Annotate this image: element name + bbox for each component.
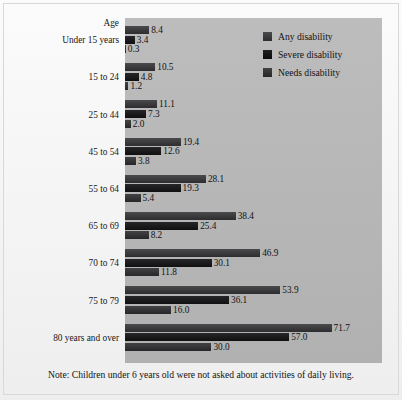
bar-row: 16.0 (125, 306, 382, 314)
bar-any (125, 63, 155, 71)
bar-value-label: 8.4 (149, 25, 163, 35)
bar-value-label: 38.4 (236, 211, 254, 221)
bar-value-label: 11.1 (157, 99, 175, 109)
legend-item: Severe disability (263, 45, 378, 63)
bar-severe (125, 73, 139, 81)
category-axis: Age Under 15 years15 to 2425 to 4445 to … (0, 18, 122, 363)
bar-any (125, 26, 149, 34)
category-label: 80 years and over (53, 333, 119, 343)
bar-value-label: 1.2 (128, 81, 142, 91)
chart-figure: 8.43.40.310.54.81.211.17.32.019.412.63.8… (0, 0, 402, 400)
bar-value-label: 30.1 (212, 258, 230, 268)
bar-value-label: 10.5 (155, 62, 173, 72)
bar-needs (125, 268, 159, 276)
bar-value-label: 16.0 (171, 305, 189, 315)
legend-item: Needs disability (263, 63, 378, 81)
bar-value-label: 36.1 (229, 295, 247, 305)
bar-value-label: 28.1 (206, 174, 224, 184)
category-label: 25 to 44 (89, 110, 119, 120)
bar-value-label: 3.4 (135, 35, 149, 45)
category-label: 45 to 54 (89, 147, 119, 157)
bar-row: 30.1 (125, 259, 382, 267)
legend-swatch-icon (263, 32, 272, 41)
bar-any (125, 249, 260, 257)
bar-row: 30.0 (125, 343, 382, 351)
bar-value-label: 3.8 (136, 156, 150, 166)
bar-value-label: 0.3 (126, 44, 140, 54)
bar-value-label: 2.0 (131, 119, 145, 129)
legend-label: Severe disability (278, 49, 342, 60)
bar-any (125, 212, 236, 220)
bar-severe (125, 333, 289, 341)
legend-swatch-icon (263, 50, 272, 59)
bar-row: 8.2 (125, 231, 382, 239)
bar-any (125, 138, 181, 146)
bar-row: 53.9 (125, 286, 382, 294)
bar-value-label: 19.3 (181, 183, 199, 193)
bar-any (125, 324, 332, 332)
bar-row: 5.4 (125, 194, 382, 202)
bar-severe (125, 36, 135, 44)
bar-needs (125, 231, 149, 239)
bar-needs (125, 343, 211, 351)
category-label: Under 15 years (62, 35, 119, 45)
bar-row: 7.3 (125, 110, 382, 118)
bar-row: 71.7 (125, 324, 382, 332)
bar-row: 19.4 (125, 138, 382, 146)
bar-value-label: 12.6 (161, 146, 179, 156)
bar-severe (125, 147, 161, 155)
bar-row: 1.2 (125, 82, 382, 90)
bar-row: 46.9 (125, 249, 382, 257)
bar-row: 3.8 (125, 157, 382, 165)
bar-needs (125, 194, 141, 202)
bar-value-label: 19.4 (181, 137, 199, 147)
bar-value-label: 57.0 (289, 332, 307, 342)
bar-row: 38.4 (125, 212, 382, 220)
category-label: 65 to 69 (89, 221, 119, 231)
legend-item: Any disability (263, 27, 378, 45)
bar-row: 28.1 (125, 175, 382, 183)
legend-label: Any disability (278, 31, 333, 42)
category-label: 75 to 79 (89, 296, 119, 306)
legend-label: Needs disability (278, 67, 340, 78)
bar-row: 25.4 (125, 222, 382, 230)
bar-row: 11.1 (125, 100, 382, 108)
bar-value-label: 8.2 (149, 230, 163, 240)
bar-value-label: 4.8 (139, 72, 153, 82)
bar-value-label: 30.0 (211, 342, 229, 352)
bar-row: 57.0 (125, 333, 382, 341)
chart-legend: Any disabilitySevere disabilityNeeds dis… (263, 27, 378, 81)
bar-any (125, 100, 157, 108)
bar-value-label: 53.9 (280, 285, 298, 295)
bar-severe (125, 110, 146, 118)
bar-row: 19.3 (125, 184, 382, 192)
category-label: 70 to 74 (89, 258, 119, 268)
legend-swatch-icon (263, 68, 272, 77)
bar-severe (125, 259, 212, 267)
bar-value-label: 71.7 (332, 323, 350, 333)
bar-row: 36.1 (125, 296, 382, 304)
bar-any (125, 286, 280, 294)
bar-any (125, 175, 206, 183)
bar-value-label: 25.4 (198, 221, 216, 231)
category-label: 15 to 24 (89, 72, 119, 82)
bar-row: 2.0 (125, 120, 382, 128)
bar-needs (125, 306, 171, 314)
bar-row: 11.8 (125, 268, 382, 276)
bar-severe (125, 296, 229, 304)
bar-severe (125, 222, 198, 230)
bar-severe (125, 184, 181, 192)
bar-row: 12.6 (125, 147, 382, 155)
bar-value-label: 5.4 (141, 193, 155, 203)
bar-needs (125, 157, 136, 165)
bar-value-label: 11.8 (159, 267, 177, 277)
axis-title-age: Age (104, 18, 120, 28)
chart-note: Note: Children under 6 years old were no… (0, 369, 402, 381)
bar-value-label: 46.9 (260, 248, 278, 258)
category-label: 55 to 64 (89, 184, 119, 194)
bar-value-label: 7.3 (146, 109, 160, 119)
